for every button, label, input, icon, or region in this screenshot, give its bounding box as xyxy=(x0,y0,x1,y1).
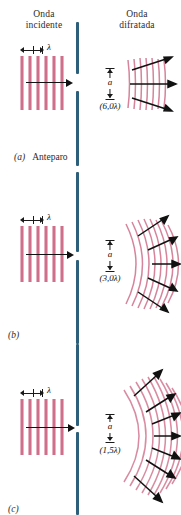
diffracted-arrow-b-3 xyxy=(152,261,180,268)
wavelength-tick-right-b xyxy=(42,216,43,224)
incident-label-line2: incidente xyxy=(8,20,80,31)
diffracted-arrow-c-4 xyxy=(154,433,180,440)
slit-cap-bottom-c xyxy=(106,442,115,443)
slit-arrow-down-icon-c xyxy=(107,437,113,441)
caption-c: (c) xyxy=(8,504,19,514)
wavelength-annotation-c: λ xyxy=(20,386,65,399)
diffracted-wave-label: Onda difratada xyxy=(101,9,173,31)
incident-ray-arrow-b xyxy=(26,254,67,255)
incident-arrow-head-icon-b xyxy=(67,251,74,259)
diffracted-label-line1: Onda xyxy=(101,9,173,20)
wavelength-tick-right xyxy=(42,46,43,54)
barrier-upper-c xyxy=(76,344,79,426)
wavelength-symbol-c: λ xyxy=(47,385,51,395)
wavelength-annotation-a: λ xyxy=(20,43,65,56)
diffracted-wave-a xyxy=(126,56,181,114)
incident-ray-arrow-a xyxy=(26,82,66,83)
barrier-upper-a xyxy=(76,22,79,74)
panel-b: λ a (3,0λ) xyxy=(0,172,181,344)
barrier-lower-b xyxy=(76,260,79,344)
slit-arrow-down-icon-b xyxy=(107,266,113,270)
panel-a: Onda incidente Onda difratada λ xyxy=(0,0,181,172)
slit-arrow-down-icon-a xyxy=(107,94,113,98)
incident-arrow-head-icon-c xyxy=(68,424,75,432)
diffracted-wave-b xyxy=(122,214,181,314)
wavelength-annotation-b: λ xyxy=(20,213,65,226)
incident-ray-arrow-c xyxy=(26,427,68,428)
wavelength-symbol-a: λ xyxy=(47,42,51,52)
wavelength-symbol-b: λ xyxy=(47,212,51,222)
barrier-upper-b xyxy=(76,172,79,252)
slit-cap-bottom-b xyxy=(106,271,115,272)
caption-label-b: (b) xyxy=(8,330,19,340)
caption-label-c: (c) xyxy=(8,504,19,514)
diffracted-label-line2: difratada xyxy=(101,20,173,31)
incident-arrow-head-icon-a xyxy=(66,79,73,87)
barrier-lower-c xyxy=(76,432,79,515)
diffracted-wave-c xyxy=(118,362,181,510)
slit-cap-bottom-a xyxy=(106,99,115,100)
caption-b: (b) xyxy=(8,330,19,340)
incident-label-line1: Onda xyxy=(8,9,80,20)
caption-a: (a) Anteparo xyxy=(14,152,68,162)
incident-wave-label: Onda incidente xyxy=(8,9,80,31)
caption-text-a: Anteparo xyxy=(32,152,67,162)
caption-label-a: (a) xyxy=(14,152,25,162)
panel-c: λ a (1,5λ) xyxy=(0,344,181,515)
diffracted-arrow-c-2 xyxy=(146,394,175,412)
barrier-lower-a xyxy=(76,91,79,166)
diffracted-arrow-c-6 xyxy=(146,460,175,478)
wavelength-tick-right-c xyxy=(42,389,43,397)
diffraction-figure: Onda incidente Onda difratada λ xyxy=(0,0,181,515)
